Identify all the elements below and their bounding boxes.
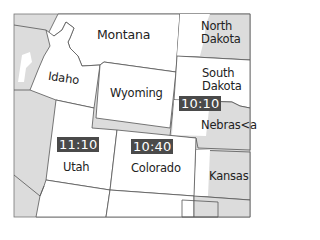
time-badge-utah: 11:10 [57, 137, 99, 152]
label-north-dakota: North Dakota [201, 20, 241, 46]
label-utah: Utah [63, 161, 89, 174]
state-oklahoma [194, 196, 250, 217]
time-badge-colorado: 10:40 [131, 139, 173, 154]
label-north-dakota-line2: Dakota [201, 33, 241, 46]
label-nebraska: Nebras<a [201, 119, 257, 132]
label-colorado: Colorado [131, 162, 181, 175]
time-badge-south-dakota: 10:10 [179, 96, 221, 111]
label-montana: Montana [97, 28, 150, 41]
label-kansas: Kansas [209, 170, 249, 183]
label-wyoming: Wyoming [110, 87, 163, 100]
ks-white [194, 150, 210, 196]
label-south-dakota-line2: Dakota [202, 80, 242, 93]
label-south-dakota: South Dakota [202, 67, 242, 93]
